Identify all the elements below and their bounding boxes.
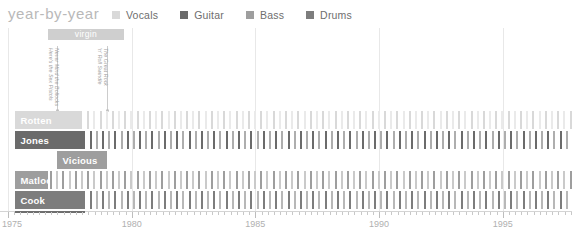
activity-tick bbox=[87, 171, 89, 189]
axis-tick-label: 1995 bbox=[493, 219, 513, 229]
activity-tick bbox=[353, 111, 355, 129]
activity-tick bbox=[176, 131, 178, 149]
activity-tick bbox=[520, 171, 522, 189]
activity-tick bbox=[415, 171, 417, 189]
member-row[interactable]: Jones bbox=[0, 131, 572, 149]
axis-tick-minor bbox=[187, 212, 188, 215]
activity-tick bbox=[273, 111, 275, 129]
axis-tick-minor bbox=[82, 212, 83, 215]
activity-tick bbox=[155, 111, 157, 129]
sparse-activity-stripes bbox=[50, 171, 572, 189]
activity-tick bbox=[93, 171, 95, 189]
activity-tick bbox=[151, 131, 153, 149]
member-rows: RottenJonesViciousMatlockCook bbox=[0, 111, 572, 211]
activity-tick bbox=[236, 171, 238, 189]
activity-tick bbox=[121, 191, 123, 209]
legend-label: Bass bbox=[260, 9, 284, 21]
activity-tick bbox=[403, 171, 405, 189]
axis-tick-minor bbox=[515, 212, 516, 215]
label-bar: virgin bbox=[48, 29, 125, 40]
activity-tick bbox=[424, 131, 426, 149]
activity-tick bbox=[498, 191, 500, 209]
activity-tick bbox=[510, 131, 512, 149]
axis-tick-minor bbox=[447, 212, 448, 215]
activity-tick bbox=[501, 171, 503, 189]
legend-item-drums[interactable]: Drums bbox=[306, 9, 352, 21]
square-swatch bbox=[112, 11, 120, 19]
activity-tick bbox=[213, 191, 215, 209]
activity-tick bbox=[75, 171, 77, 189]
axis-tick-major bbox=[8, 212, 9, 218]
activity-tick bbox=[223, 171, 225, 189]
axis-tick-minor bbox=[552, 212, 553, 215]
axis-tick-minor bbox=[107, 212, 108, 215]
member-row[interactable]: Cook bbox=[0, 191, 572, 209]
activity-tick bbox=[223, 111, 225, 129]
activity-tick bbox=[211, 111, 213, 129]
axis-tick-minor bbox=[163, 212, 164, 215]
activity-tick bbox=[124, 171, 126, 189]
activity-tick bbox=[570, 171, 572, 189]
activity-tick bbox=[560, 131, 562, 149]
activity-tick bbox=[285, 171, 287, 189]
activity-tick bbox=[365, 171, 367, 189]
axis-tick-minor bbox=[527, 212, 528, 215]
activity-tick bbox=[529, 191, 531, 209]
activity-tick bbox=[477, 171, 479, 189]
member-row[interactable]: Rotten bbox=[0, 111, 572, 129]
axis-tick-minor bbox=[126, 212, 127, 215]
activity-tick bbox=[415, 111, 417, 129]
activity-tick bbox=[213, 131, 215, 149]
axis-tick-minor bbox=[51, 212, 52, 215]
activity-tick bbox=[288, 131, 290, 149]
activity-tick bbox=[312, 191, 314, 209]
axis-tick-minor bbox=[534, 212, 535, 215]
activity-tick bbox=[149, 111, 151, 129]
activity-tick bbox=[508, 111, 510, 129]
legend-item-guitar[interactable]: Guitar bbox=[180, 9, 224, 21]
activity-tick bbox=[566, 131, 568, 149]
activity-tick bbox=[372, 171, 374, 189]
activity-tick bbox=[201, 131, 203, 149]
axis-tick-minor bbox=[385, 212, 386, 215]
activity-tick bbox=[158, 131, 160, 149]
activity-tick bbox=[510, 191, 512, 209]
activity-tick bbox=[108, 191, 110, 209]
activity-tick bbox=[523, 131, 525, 149]
activity-tick bbox=[127, 191, 129, 209]
activity-tick bbox=[343, 191, 345, 209]
axis-tick-minor bbox=[156, 212, 157, 215]
activity-tick bbox=[127, 131, 129, 149]
activity-tick bbox=[108, 131, 110, 149]
axis-tick-minor bbox=[95, 212, 96, 215]
legend-item-bass[interactable]: Bass bbox=[246, 9, 284, 21]
activity-tick bbox=[124, 111, 126, 129]
activity-tick bbox=[312, 131, 314, 149]
member-name-label: Vicious bbox=[57, 151, 106, 169]
activity-tick bbox=[322, 111, 324, 129]
activity-tick bbox=[219, 131, 221, 149]
activity-tick bbox=[164, 131, 166, 149]
activity-tick bbox=[288, 191, 290, 209]
legend: VocalsGuitarBassDrums bbox=[112, 9, 374, 21]
activity-tick bbox=[495, 171, 497, 189]
legend-item-vocals[interactable]: Vocals bbox=[112, 9, 158, 21]
activity-tick bbox=[557, 111, 559, 129]
activity-tick bbox=[433, 171, 435, 189]
activity-tick bbox=[535, 191, 537, 209]
activity-tick bbox=[244, 131, 246, 149]
album-label-line: The Great Rock bbox=[103, 48, 109, 86]
member-name-label: Jones bbox=[15, 131, 84, 149]
activity-tick bbox=[454, 191, 456, 209]
activity-tick bbox=[300, 131, 302, 149]
activity-tick bbox=[409, 171, 411, 189]
activity-tick bbox=[464, 171, 466, 189]
activity-tick bbox=[483, 171, 485, 189]
activity-tick bbox=[440, 111, 442, 129]
activity-tick bbox=[452, 171, 454, 189]
member-row[interactable]: Matlock bbox=[0, 171, 572, 189]
member-row[interactable]: Vicious bbox=[0, 151, 572, 169]
activity-tick bbox=[201, 191, 203, 209]
activity-tick bbox=[442, 131, 444, 149]
activity-tick bbox=[452, 111, 454, 129]
